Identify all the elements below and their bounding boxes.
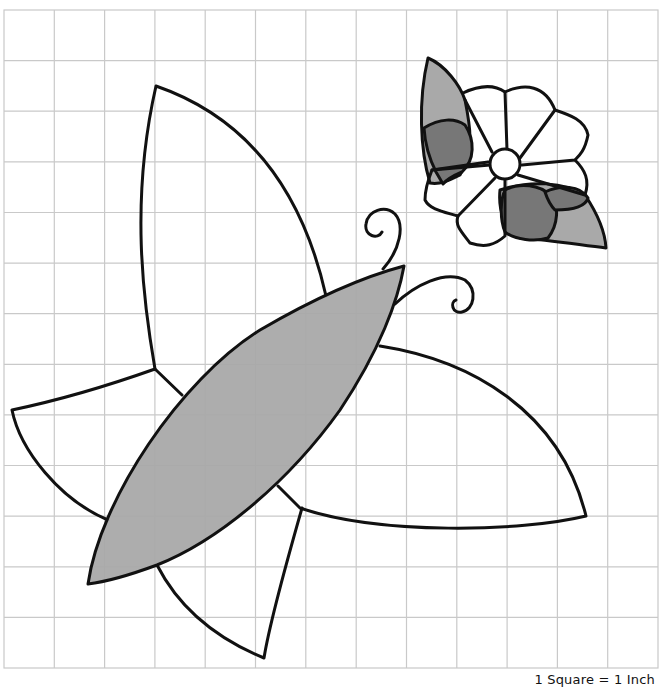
flower-center bbox=[490, 149, 520, 179]
petal-right bbox=[522, 110, 588, 165]
flower bbox=[421, 58, 606, 248]
quilt-pattern-diagram bbox=[0, 0, 663, 689]
antenna-left bbox=[366, 209, 400, 269]
petal-top-right bbox=[505, 87, 555, 158]
petal-bottom bbox=[457, 178, 505, 245]
scale-label: 1 Square = 1 Inch bbox=[534, 672, 655, 687]
